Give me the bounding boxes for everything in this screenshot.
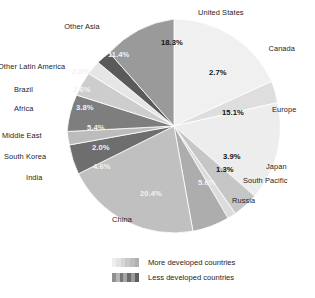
slice-value-south-pacific: 1.3% xyxy=(216,165,234,174)
slice-value-brazil: 2.6% xyxy=(73,85,91,94)
label-india: India xyxy=(26,173,71,182)
slice-value-other-latin-america: 2.8% xyxy=(72,67,90,76)
label-middle-east: Middle East xyxy=(2,131,71,140)
legend-label-less-developed: Less developed countries xyxy=(148,273,234,282)
label-other-asia: Other Asia xyxy=(52,22,112,31)
label-south-pacific: South Pacific xyxy=(243,176,287,185)
legend-item-more-developed[interactable]: More developed countries xyxy=(112,256,302,269)
label-canada: Canada xyxy=(229,44,295,53)
pie-chart: 18.3% 2.7% 15.1% 3.9% 1.3% 5.6% 20.4% 4.… xyxy=(0,0,315,298)
label-other-latin-america: Other Latin America xyxy=(0,62,70,71)
legend-label-more-developed: More developed countries xyxy=(148,258,235,267)
label-south-korea: South Korea xyxy=(4,152,71,161)
slice-value-africa: 3.8% xyxy=(76,103,94,112)
label-russia: Russia xyxy=(232,196,255,205)
label-europe: Europe xyxy=(272,105,296,114)
label-china: China xyxy=(102,215,142,224)
slice-value-russia: 5.6% xyxy=(198,178,216,187)
slice-value-south-korea: 2.0% xyxy=(92,143,110,152)
legend-swatch-more-developed-icon xyxy=(112,258,139,267)
slice-value-middle-east: 5.4% xyxy=(87,123,105,132)
label-japan: Japan xyxy=(266,162,287,171)
slice-value-europe: 15.1% xyxy=(222,108,244,117)
slice-value-japan: 3.9% xyxy=(223,152,241,161)
slice-value-canada: 2.7% xyxy=(209,68,227,77)
label-africa: Africa xyxy=(14,104,70,113)
slice-value-other-asia: 11.4% xyxy=(108,50,129,59)
slice-value-united-states: 18.3% xyxy=(161,38,183,47)
slice-value-india: 4.6% xyxy=(93,162,111,171)
legend-item-less-developed[interactable]: Less developed countries xyxy=(112,271,302,284)
legend-swatch-less-developed-icon xyxy=(112,273,139,282)
label-united-states: United States xyxy=(198,8,244,17)
label-brazil: Brazil xyxy=(14,85,67,94)
chart-legend: More developed countries Less developed … xyxy=(112,256,302,286)
slice-value-china: 20.4% xyxy=(140,189,162,198)
